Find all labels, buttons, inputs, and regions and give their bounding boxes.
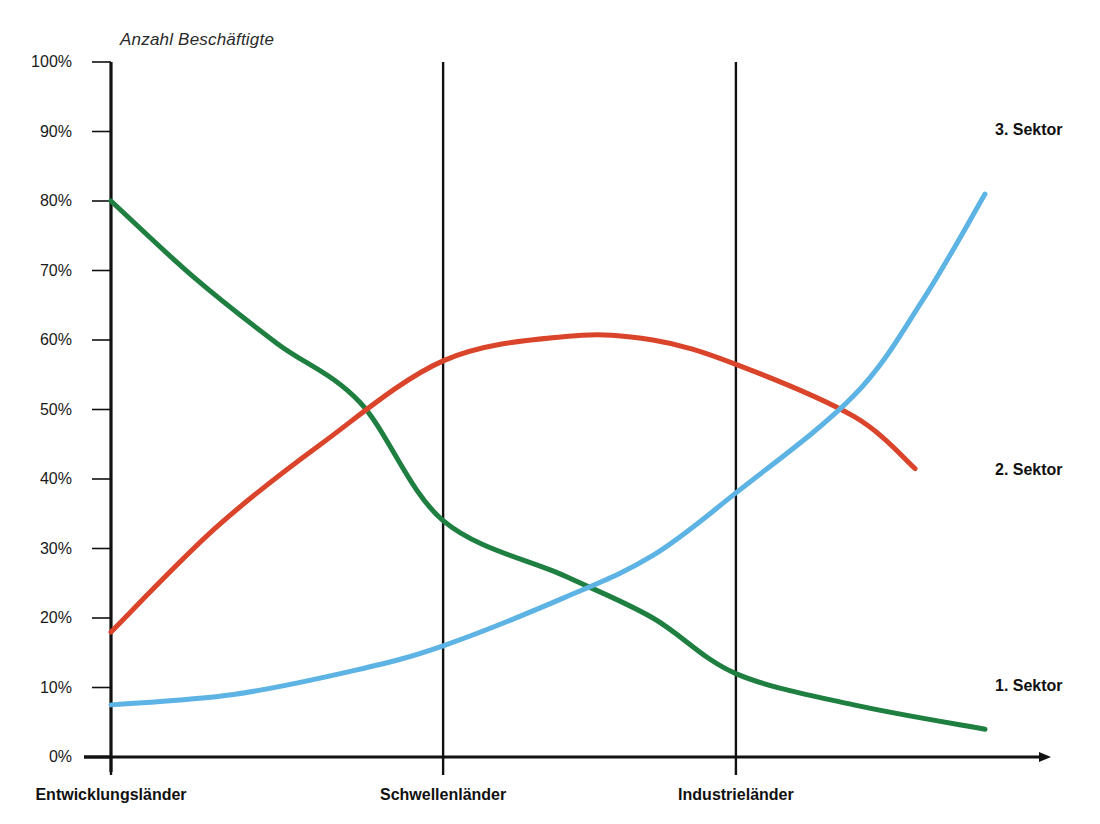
chart-container: Anzahl Beschäftigte 0%10%20%30%40%50%60%… [0, 0, 1100, 824]
x-axis-ticks [111, 757, 736, 775]
y-axis-tick-label: 10% [0, 679, 72, 697]
y-axis-tick-label: 20% [0, 609, 72, 627]
y-axis-tick-label: 100% [0, 53, 72, 71]
x-axis-category-label: Schwellenländer [380, 786, 506, 804]
y-axis-tick-label: 90% [0, 123, 72, 141]
chart-canvas [0, 0, 1100, 824]
series-curves [111, 194, 985, 729]
y-axis-tick-label: 60% [0, 331, 72, 349]
y-axis-tick-label: 40% [0, 470, 72, 488]
series-curve [111, 335, 915, 632]
series-curve [111, 201, 985, 729]
x-axis-category-label: Entwicklungsländer [35, 786, 186, 804]
series-legend-label: 2. Sektor [995, 461, 1063, 479]
series-curve [111, 194, 985, 705]
x-axis-category-label: Industrieländer [678, 786, 794, 804]
series-legend-label: 1. Sektor [995, 677, 1063, 695]
y-axis-tick-label: 70% [0, 262, 72, 280]
y-axis-tick-label: 50% [0, 401, 72, 419]
series-legend-label: 3. Sektor [995, 121, 1063, 139]
y-axis-tick-label: 0% [0, 748, 72, 766]
y-axis-tick-label: 80% [0, 192, 72, 210]
y-axis-ticks [84, 62, 111, 757]
category-divider-lines [443, 62, 736, 757]
y-axis-title: Anzahl Beschäftigte [120, 30, 274, 50]
y-axis-tick-label: 30% [0, 540, 72, 558]
